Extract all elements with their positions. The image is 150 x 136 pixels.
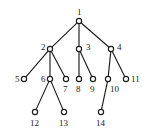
tree-node-3 (76, 46, 81, 51)
tree-node-12 (32, 109, 37, 114)
tree-node-13 (61, 109, 66, 114)
tree-node-4 (108, 46, 113, 51)
tree-edge-1-2 (52, 23, 77, 47)
tree-edge-4-10 (108, 52, 110, 77)
tree-node-label-13: 13 (59, 119, 68, 128)
tree-node-11 (123, 76, 128, 81)
tree-node-label-4: 4 (117, 43, 122, 52)
tree-diagram-figure: 1234567891011121314 (0, 0, 150, 136)
tree-edge-6-13 (51, 81, 63, 109)
tree-node-label-11: 11 (131, 75, 140, 84)
tree-node-label-5: 5 (15, 75, 20, 84)
tree-graphics (0, 0, 150, 136)
tree-node-10 (105, 76, 110, 81)
tree-node-label-14: 14 (96, 119, 105, 128)
tree-edge-10-14 (102, 82, 108, 110)
tree-edge-2-7 (51, 51, 65, 76)
tree-node-5 (21, 76, 26, 81)
tree-node-1 (76, 18, 81, 23)
tree-node-7 (63, 76, 68, 81)
edges-group (26, 23, 125, 110)
nodes-group (21, 18, 128, 114)
tree-node-label-12: 12 (30, 119, 39, 128)
tree-node-2 (47, 46, 52, 51)
tree-node-label-8: 8 (76, 85, 81, 94)
tree-node-label-1: 1 (77, 8, 82, 17)
tree-edge-6-12 (36, 81, 49, 109)
tree-node-label-10: 10 (110, 85, 119, 94)
tree-node-label-9: 9 (90, 85, 95, 94)
tree-edge-4-11 (112, 51, 125, 76)
tree-node-label-3: 3 (86, 43, 91, 52)
tree-node-label-6: 6 (41, 75, 46, 84)
tree-node-label-7: 7 (63, 85, 68, 94)
tree-node-9 (90, 76, 95, 81)
tree-edge-3-9 (80, 51, 92, 76)
tree-node-14 (98, 109, 103, 114)
tree-node-6 (47, 76, 52, 81)
tree-node-8 (76, 76, 81, 81)
tree-node-label-2: 2 (41, 43, 46, 52)
